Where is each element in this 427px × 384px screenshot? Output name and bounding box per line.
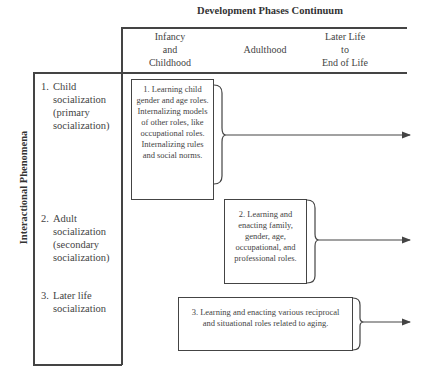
braces-and-arrows	[0, 0, 427, 384]
brace-1	[214, 85, 226, 184]
brace-2	[307, 200, 319, 283]
brace-3	[353, 298, 364, 350]
